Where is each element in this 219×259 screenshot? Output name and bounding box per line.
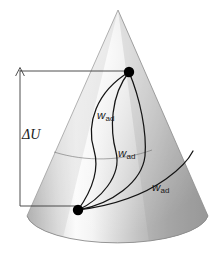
cone-body (18, 10, 215, 250)
cone-diagram-figure: ΔU wad wad wad (0, 0, 219, 259)
final-state-point (124, 67, 134, 77)
work-label-3-subscript: ad (160, 186, 169, 195)
work-label-2-subscript: ad (126, 152, 135, 161)
work-label-3: wad (152, 182, 170, 195)
work-label-1: wad (97, 110, 115, 123)
work-label-2: wad (118, 148, 136, 161)
work-label-1-subscript: ad (105, 114, 114, 123)
initial-state-point (73, 205, 83, 215)
delta-u-text: ΔU (22, 127, 40, 142)
delta-u-label: ΔU (22, 128, 40, 142)
